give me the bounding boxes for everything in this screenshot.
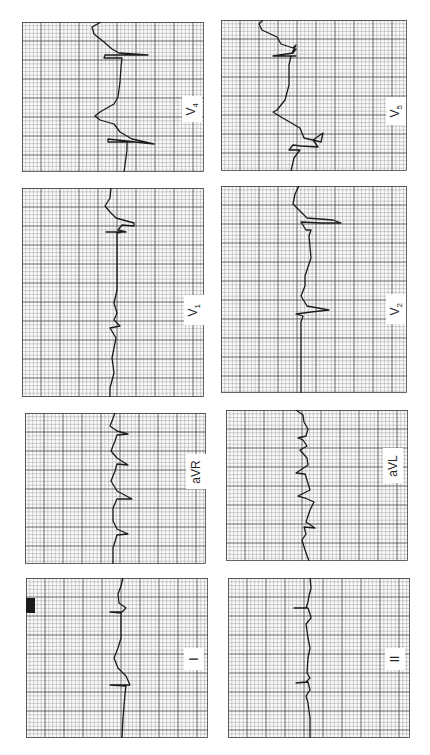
- ecg-grid: [221, 20, 407, 171]
- ecg-trace: [92, 22, 154, 172]
- ecg-panel-i: I: [26, 578, 208, 738]
- ecg-grid: [228, 578, 410, 738]
- ecg-trace: [293, 186, 341, 393]
- ecg-grid: [221, 186, 407, 393]
- ecg-panel-avl: aVL: [226, 410, 408, 561]
- ecg-panel-v4: V4: [22, 22, 204, 172]
- lead-label-avl: aVL: [383, 448, 403, 483]
- ecg-grid: [22, 22, 204, 172]
- ecg-grid: [25, 413, 206, 564]
- lead-label-v2: V2: [386, 294, 406, 324]
- ecg-panel-v2: V2: [221, 186, 407, 393]
- lead-label-avr: aVR: [186, 454, 206, 489]
- lead-label-i: I: [184, 648, 204, 670]
- ecg-panel-v1: V1: [22, 188, 204, 397]
- ecg-grid: [226, 410, 408, 561]
- lead-label-v1: V1: [184, 295, 204, 325]
- ecg-panel-ii: II: [228, 578, 410, 738]
- lead-label-v5: V5: [386, 97, 406, 125]
- calibration-mark: [26, 598, 35, 613]
- ecg-panel-v5: V5: [221, 20, 407, 171]
- lead-label-v4: V4: [182, 96, 202, 122]
- ecg-grid: [22, 188, 204, 397]
- ecg-panel-avr: aVR: [25, 413, 206, 564]
- lead-label-ii: II: [385, 648, 405, 670]
- ecg-grid: [26, 578, 208, 738]
